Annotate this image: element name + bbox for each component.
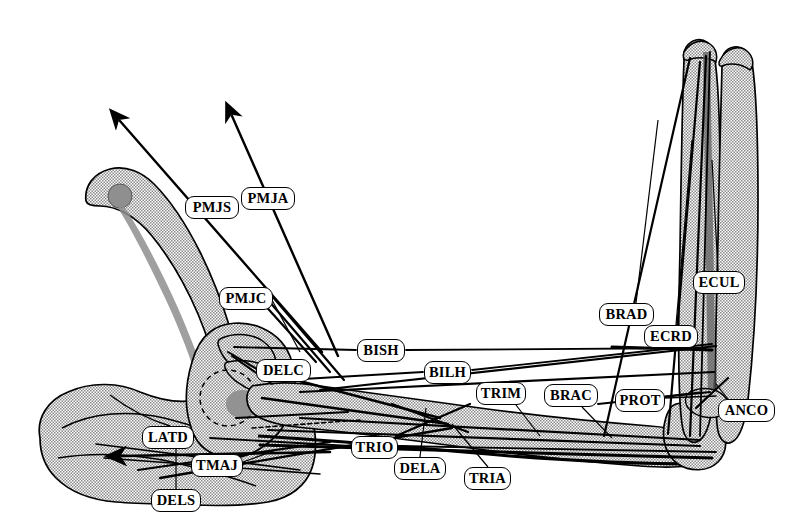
label-pmjc[interactable]: PMJC [219, 287, 273, 310]
label-dels[interactable]: DELS [151, 489, 201, 512]
label-trio[interactable]: TRIO [351, 436, 398, 459]
label-trim[interactable]: TRIM [476, 382, 526, 405]
label-anco[interactable]: ANCO [718, 399, 775, 422]
label-ecul[interactable]: ECUL [693, 271, 745, 294]
label-latd[interactable]: LATD [142, 426, 194, 449]
label-bilh[interactable]: BILH [424, 361, 471, 384]
label-brac[interactable]: BRAC [544, 384, 598, 407]
label-prot[interactable]: PROT [615, 389, 665, 412]
label-brad[interactable]: BRAD [599, 303, 654, 326]
label-pmjs[interactable]: PMJS [185, 196, 239, 219]
anatomical-figure: PMJS PMJA PMJC DELC BISH BILH TRIM BRAC … [0, 0, 798, 531]
label-delc[interactable]: DELC [256, 359, 311, 382]
label-pmja[interactable]: PMJA [241, 187, 295, 210]
clavicle-head [108, 184, 132, 208]
label-tria[interactable]: TRIA [464, 467, 511, 490]
label-bish[interactable]: BISH [357, 339, 405, 362]
muscle-line-brad [604, 58, 690, 436]
label-dela[interactable]: DELA [394, 457, 446, 480]
label-tmaj[interactable]: TMAJ [191, 454, 243, 477]
figure-canvas [0, 0, 798, 531]
label-ecrd[interactable]: ECRD [644, 325, 698, 348]
